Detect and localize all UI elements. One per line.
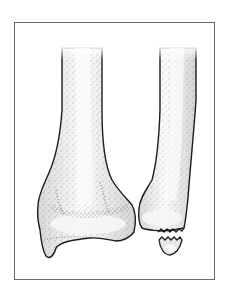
avulsed-fragment xyxy=(159,237,182,255)
fibula xyxy=(139,46,198,232)
bone-illustration xyxy=(0,0,229,303)
tibia xyxy=(38,46,136,257)
